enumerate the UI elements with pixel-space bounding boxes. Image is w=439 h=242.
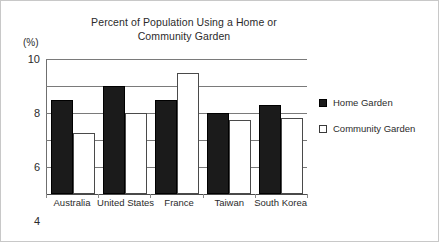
bar-group — [99, 59, 151, 194]
y-axis-tick-label: 6 — [34, 161, 40, 173]
y-axis-unit-label: (%) — [23, 37, 39, 48]
y-axis-tick-label: 4 — [34, 215, 40, 227]
chart-legend: Home GardenCommunity Garden — [319, 97, 415, 149]
bar-home-garden — [259, 105, 281, 194]
x-axis-tick-label: France — [154, 197, 204, 208]
x-axis-labels: AustraliaUnited StatesFranceTaiwanSouth … — [47, 197, 307, 208]
bar-home-garden — [103, 86, 125, 194]
bar-community-garden — [125, 113, 147, 194]
chart-figure: Percent of Population Using a Home or Co… — [0, 0, 439, 242]
legend-item[interactable]: Community Garden — [319, 123, 415, 134]
bar-community-garden — [229, 120, 251, 194]
legend-label: Home Garden — [333, 97, 393, 108]
bar-group — [47, 59, 99, 194]
x-axis-tick-label: Australia — [47, 197, 97, 208]
bar-community-garden — [281, 118, 303, 194]
chart-title: Percent of Population Using a Home or Co… — [59, 15, 309, 43]
bar-community-garden — [177, 73, 199, 195]
plot-area: 1086420 — [46, 59, 307, 194]
y-axis-tick-label: 10 — [28, 53, 40, 65]
bar-home-garden — [155, 100, 177, 195]
legend-item[interactable]: Home Garden — [319, 97, 415, 108]
x-axis-tick-label: Taiwan — [204, 197, 254, 208]
bar-group — [255, 59, 307, 194]
legend-label: Community Garden — [333, 123, 415, 134]
bar-home-garden — [51, 100, 73, 195]
x-axis-tick-label: United States — [97, 197, 154, 208]
bar-community-garden — [73, 133, 95, 194]
y-axis-tick-label: 8 — [34, 107, 40, 119]
bar-groups — [47, 59, 307, 194]
x-axis-tick-label: South Korea — [254, 197, 307, 208]
legend-swatch-home-garden — [319, 99, 327, 107]
legend-swatch-community-garden — [319, 125, 327, 133]
x-axis-tick — [307, 194, 308, 198]
bar-group — [203, 59, 255, 194]
bar-home-garden — [207, 113, 229, 194]
bar-group — [151, 59, 203, 194]
